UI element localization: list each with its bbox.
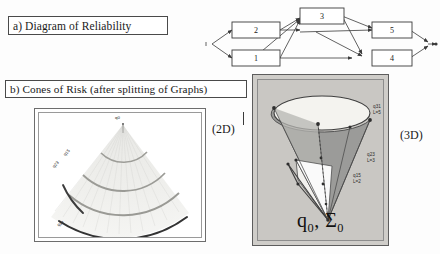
view-3d-tag: (3D) — [400, 128, 423, 143]
node-label-5: 5 — [390, 26, 394, 35]
cone-label-q23-q: q23 — [367, 152, 375, 158]
view-2d-tag: (2D) — [212, 122, 235, 137]
cone-apex-sigma: , Σ — [314, 209, 337, 231]
cone-label-q15-level: L=2 — [353, 179, 361, 185]
cone-label-q31: q31 L=5 — [373, 104, 381, 115]
cone-of-risk-2d-plot: q0 q15 q23 q31 — [38, 112, 202, 238]
cone-label-q15-q: q15 — [353, 173, 361, 179]
node-label-1: 1 — [254, 54, 258, 63]
cone-label-q31-level: L=5 — [373, 110, 381, 116]
node-label-4: 4 — [390, 54, 394, 63]
node-label-2: 2 — [254, 26, 258, 35]
panel-b-caption-box: b) Cones of Risk (after splitting of Gra… — [5, 80, 247, 98]
cone-of-risk-3d-panel: q31 L=5 q23 L=3 q15 L=2 q0, Σ0 — [252, 74, 389, 246]
panel-b-caption: b) Cones of Risk (after splitting of Gra… — [10, 83, 207, 95]
cone-apex-sigma-sub: 0 — [337, 221, 344, 235]
reliability-block-diagram: 2 1 3 5 4 — [196, 2, 440, 74]
cone-of-risk-3d-plot: q31 L=5 q23 L=3 q15 L=2 q0, Σ0 — [257, 79, 384, 241]
cone-label-q23: q23 L=3 — [367, 152, 375, 163]
cone-apex-q: q — [297, 209, 308, 231]
separator-tick — [243, 112, 244, 125]
panel-a-caption-box: a) Diagram of Reliability — [8, 16, 168, 35]
cone-label-q15: q15 L=2 — [353, 173, 361, 184]
cone-of-risk-2d-panel: q0 q15 q23 q31 — [34, 108, 206, 242]
panel-a-caption: a) Diagram of Reliability — [13, 20, 131, 32]
node-label-3: 3 — [320, 12, 324, 21]
fan-apex-label: q0 — [115, 115, 120, 120]
cone-apex-label: q0, Σ0 — [258, 209, 383, 236]
cone-label-q31-q: q31 — [373, 104, 381, 110]
cone-label-q23-level: L=3 — [367, 158, 375, 164]
